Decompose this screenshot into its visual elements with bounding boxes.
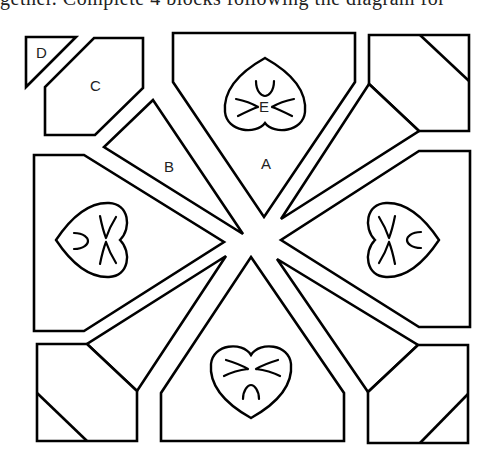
- label-d: D: [36, 44, 47, 61]
- label-e: E: [259, 98, 269, 115]
- label-b: B: [164, 158, 174, 175]
- label-c: C: [90, 77, 101, 94]
- label-a: A: [261, 155, 271, 172]
- quilt-block-diagram: E D C B A: [0, 0, 489, 459]
